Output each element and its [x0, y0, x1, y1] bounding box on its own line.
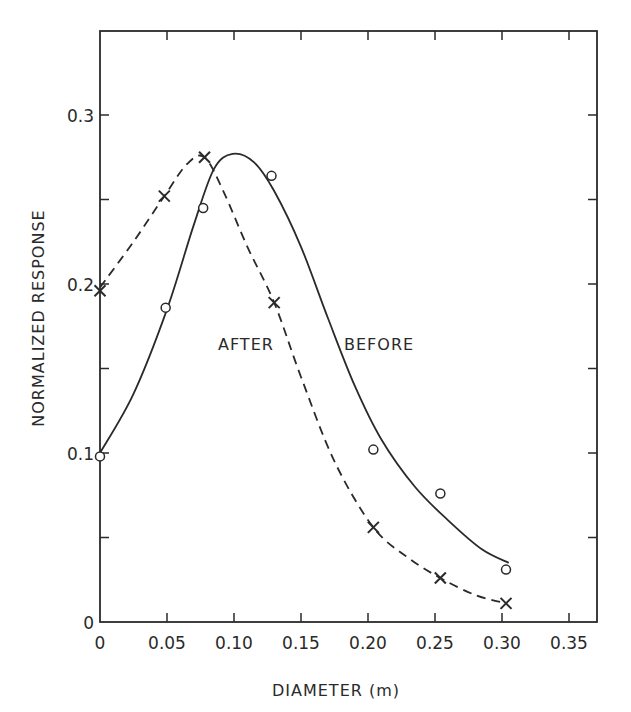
x-tick-label: 0.05 — [148, 633, 186, 653]
after-curve — [100, 155, 506, 603]
series-markers — [95, 152, 512, 609]
before-circle-marker — [436, 489, 445, 498]
x-tick-label: 0.20 — [349, 633, 387, 653]
y-tick-label: 0.1 — [67, 444, 94, 464]
after-series-label: AFTER — [218, 335, 274, 354]
plot-frame — [100, 31, 597, 622]
after-x-marker — [159, 191, 170, 202]
before-curve — [100, 154, 509, 563]
y-tick-label: 0.3 — [67, 106, 94, 126]
after-x-marker — [501, 598, 512, 609]
before-circle-marker — [267, 171, 276, 180]
axis-ticks — [100, 31, 597, 622]
before-circle-marker — [96, 452, 105, 461]
before-series-label: BEFORE — [344, 335, 414, 354]
x-tick-label: 0.30 — [483, 633, 521, 653]
y-tick-label: 0.2 — [67, 275, 94, 295]
x-axis-title: DIAMETER (m) — [272, 681, 400, 700]
x-tick-label: 0.10 — [215, 633, 253, 653]
y-axis-title: NORMALIZED RESPONSE — [29, 209, 48, 426]
before-circle-marker — [161, 303, 170, 312]
chart: 00.050.100.150.200.250.300.3500.10.20.3 … — [0, 0, 631, 712]
series-curves — [100, 154, 509, 604]
after-x-marker — [368, 522, 379, 533]
before-circle-marker — [502, 565, 511, 574]
before-circle-marker — [199, 203, 208, 212]
x-tick-label: 0.15 — [282, 633, 320, 653]
after-x-marker — [199, 152, 210, 163]
y-tick-label: 0 — [83, 613, 94, 633]
before-circle-marker — [369, 445, 378, 454]
plot-border — [100, 31, 597, 622]
after-x-marker — [269, 297, 280, 308]
x-tick-label: 0.35 — [550, 633, 588, 653]
x-tick-label: 0 — [95, 633, 106, 653]
after-x-marker — [435, 573, 446, 584]
x-tick-label: 0.25 — [416, 633, 454, 653]
